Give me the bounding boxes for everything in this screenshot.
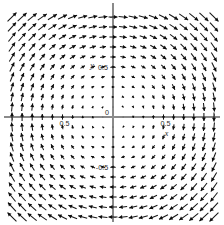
y-tick-label-neg-half: -0.5 [96, 163, 108, 172]
field-arrow [101, 107, 103, 109]
field-arrow [182, 144, 186, 150]
field-arrow [169, 214, 178, 219]
x-tick-label-pos-half: 0.5 [161, 119, 171, 128]
field-arrow [192, 83, 196, 90]
field-arrow [159, 215, 168, 220]
field-arrow [100, 175, 105, 178]
field-arrow [122, 145, 125, 148]
field-arrow [149, 215, 158, 219]
field-arrow [69, 45, 75, 49]
field-arrow [212, 143, 216, 152]
field-arrow [152, 125, 155, 129]
field-arrow [139, 205, 147, 209]
arrow-head [98, 215, 102, 219]
field-arrow [41, 134, 45, 140]
field-arrow [120, 35, 127, 39]
field-arrow [160, 195, 167, 199]
field-arrow [91, 86, 94, 89]
arrow-head [99, 205, 103, 209]
arrow-head [103, 25, 107, 29]
field-arrow [182, 94, 186, 100]
field-arrow [192, 153, 196, 160]
field-arrow [142, 155, 146, 158]
field-arrow [181, 54, 186, 60]
field-arrow [79, 25, 87, 29]
arrow-head [132, 135, 135, 138]
field-arrow [152, 75, 156, 79]
field-arrow [132, 85, 135, 88]
field-arrow [51, 74, 55, 79]
field-arrow [20, 123, 24, 131]
field-arrow [150, 35, 157, 39]
field-arrow [151, 65, 155, 69]
field-arrow [119, 205, 127, 209]
field-arrow [140, 45, 146, 49]
field-arrow [120, 55, 125, 58]
arrow-head [92, 136, 95, 139]
field-arrow [70, 65, 74, 69]
field-arrow [123, 125, 125, 127]
field-arrow [78, 15, 87, 19]
arrow-head [30, 113, 34, 117]
field-arrow [92, 136, 95, 139]
field-arrow [38, 204, 46, 210]
field-arrow [170, 204, 178, 209]
field-arrow [160, 185, 166, 189]
field-arrow [89, 35, 96, 39]
field-arrow [8, 23, 16, 32]
field-arrow [210, 203, 218, 212]
field-arrow [61, 145, 64, 149]
field-arrow [40, 84, 44, 90]
field-arrow [98, 15, 107, 19]
field-arrow [180, 194, 187, 200]
field-arrow [30, 153, 34, 160]
field-arrow [51, 84, 54, 89]
field-arrow [151, 175, 156, 179]
arrow-head [202, 127, 206, 131]
field-arrow [212, 133, 216, 142]
field-arrow [131, 165, 135, 168]
arrow-head [92, 35, 96, 39]
field-arrow [69, 25, 77, 29]
field-arrow [90, 55, 95, 58]
field-arrow [170, 44, 176, 49]
field-arrow [10, 153, 14, 162]
field-arrow [30, 103, 34, 110]
field-arrow [99, 35, 106, 39]
field-arrow [110, 185, 116, 189]
field-arrow [90, 175, 95, 178]
field-arrow [190, 203, 198, 210]
field-arrow [202, 73, 206, 81]
arrow-head [202, 117, 206, 121]
field-arrow [182, 114, 186, 120]
field-arrow [171, 64, 175, 69]
field-arrow [211, 43, 217, 52]
arrow-head [212, 118, 216, 122]
arrow-head [110, 175, 113, 179]
field-arrow [142, 135, 145, 138]
arrow-head [91, 106, 93, 109]
field-arrow [129, 15, 138, 19]
field-arrow [88, 15, 97, 19]
field-arrow [28, 13, 37, 20]
field-arrow [162, 145, 165, 149]
arrow-head [121, 105, 123, 107]
field-arrow [59, 35, 66, 39]
field-arrow [81, 96, 84, 99]
field-arrow [130, 195, 137, 199]
field-arrow [212, 103, 216, 112]
field-arrow [30, 113, 34, 120]
field-arrow [210, 213, 219, 222]
arrow-head [30, 133, 34, 137]
field-arrow [142, 75, 146, 78]
field-arrow [210, 193, 217, 202]
field-arrow [60, 55, 65, 59]
field-arrow [39, 184, 45, 190]
field-arrow [18, 213, 27, 221]
field-arrow [48, 204, 56, 209]
field-arrow [51, 154, 55, 159]
field-arrow [120, 195, 127, 199]
field-arrow [81, 86, 84, 89]
arrow-head [40, 114, 44, 117]
field-arrow [139, 15, 148, 19]
